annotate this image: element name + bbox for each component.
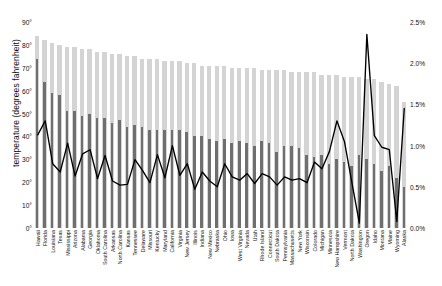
x-axis-label: Alabama bbox=[80, 230, 86, 251]
x-axis-label: Pennsylvania bbox=[282, 230, 288, 261]
x-axis-label: Alaska bbox=[401, 230, 407, 246]
x-axis-label-cell: Florida bbox=[41, 229, 48, 286]
x-axis-label-cell: Georgia bbox=[86, 229, 93, 286]
x-axis-label-cell: Michigan bbox=[318, 229, 325, 286]
x-axis-label: Connecticut bbox=[267, 230, 273, 258]
x-axis-label-cell: Oregon bbox=[363, 229, 370, 286]
x-axis-label-cell: Illinois bbox=[191, 229, 198, 286]
x-axis-label-cell: Louisiana bbox=[49, 229, 56, 286]
x-axis-label: Kansas bbox=[125, 230, 131, 248]
x-axis-label: Mississippi bbox=[65, 230, 71, 256]
x-axis-label: New Mexico bbox=[207, 230, 213, 259]
x-axis-label-cell: Utah bbox=[251, 229, 258, 286]
y-tick-right: 0.5% bbox=[410, 183, 440, 190]
x-axis-label-cell: New Hampshire bbox=[333, 229, 340, 286]
y-tick-right: 2.5% bbox=[410, 19, 440, 26]
x-axis-label-cell: Minnesota bbox=[326, 229, 333, 286]
x-axis-label: Louisiana bbox=[50, 230, 56, 253]
x-axis-label: Ohio bbox=[222, 230, 228, 241]
x-axis-label: California bbox=[169, 230, 175, 252]
x-axis-label: New Jersey bbox=[184, 230, 190, 258]
x-axis-label-cell: Kansas bbox=[124, 229, 131, 286]
x-axis-label-cell: Hawaii bbox=[34, 229, 41, 286]
x-axis-label: Arizona bbox=[72, 230, 78, 248]
x-axis-label: Maryland bbox=[162, 230, 168, 252]
x-axis-label-cell: South Dakota bbox=[274, 229, 281, 286]
x-axis-label: Oklahoma bbox=[95, 230, 101, 254]
x-axis-label-cell: Texas bbox=[56, 229, 63, 286]
x-axis-label: Massachusetts bbox=[289, 230, 295, 265]
x-axis-label: Wyoming bbox=[394, 230, 400, 252]
x-axis-label: Minnesota bbox=[327, 230, 333, 254]
x-axis-label: Delaware bbox=[140, 230, 146, 252]
y-tick-right: 1.0% bbox=[410, 142, 440, 149]
x-axis-label: Hawaii bbox=[35, 230, 41, 246]
x-axis-label: South Dakota bbox=[274, 230, 280, 262]
x-axis-label: Arkansas bbox=[110, 230, 116, 252]
x-axis-label-cell: Massachusetts bbox=[288, 229, 295, 286]
x-axis-label: Utah bbox=[252, 230, 258, 241]
x-axis-label: North Dakota bbox=[349, 230, 355, 261]
x-axis-label-cell: Arkansas bbox=[109, 229, 116, 286]
plot-area bbox=[34, 22, 408, 228]
x-axis-label: Florida bbox=[42, 230, 48, 246]
x-axis-label: Colorado bbox=[312, 230, 318, 251]
x-axis-label-cell: Colorado bbox=[311, 229, 318, 286]
x-axis-label-cell: Missouri bbox=[146, 229, 153, 286]
x-axis-label: North Carolina bbox=[117, 230, 123, 264]
x-axis-label-cell: Kentucky bbox=[154, 229, 161, 286]
y-tick-right: 1.5% bbox=[410, 101, 440, 108]
x-axis-label-cell: South Carolina bbox=[101, 229, 108, 286]
x-axis-label-cell: Rhode Island bbox=[259, 229, 266, 286]
x-axis-label-cell: Pennsylvania bbox=[281, 229, 288, 286]
x-axis-label-cell: Wyoming bbox=[393, 229, 400, 286]
x-axis-label: Wisconsin bbox=[304, 230, 310, 254]
x-axis-label: Georgia bbox=[87, 230, 93, 249]
x-axis-label-cell: North Carolina bbox=[116, 229, 123, 286]
x-axis-label: Tennessee bbox=[132, 230, 138, 256]
x-axis-label: Oregon bbox=[364, 230, 370, 248]
x-axis-label-cell: Nebraska bbox=[214, 229, 221, 286]
x-axis-label: New Hampshire bbox=[334, 230, 340, 268]
y-axis-title: temperature (degrees fahrenheit) bbox=[11, 0, 23, 218]
x-axis-label-cell: Alabama bbox=[79, 229, 86, 286]
x-axis-label-cell: Connecticut bbox=[266, 229, 273, 286]
x-axis-label: Montana bbox=[379, 230, 385, 251]
x-axis-label: Texas bbox=[57, 230, 63, 244]
x-axis-label-cell: Arizona bbox=[71, 229, 78, 286]
y-tick-right: 0.0% bbox=[410, 225, 440, 232]
x-axis-label-cell: New Jersey bbox=[184, 229, 191, 286]
line-series-overlay bbox=[34, 22, 408, 228]
y-tick-left: 0° bbox=[16, 225, 32, 232]
x-axis-label: Virginia bbox=[177, 230, 183, 248]
x-axis-label-cell: Tennessee bbox=[131, 229, 138, 286]
x-axis-label-cell: New York bbox=[296, 229, 303, 286]
x-axis-label-cell: Washington bbox=[356, 229, 363, 286]
x-axis-label: Rhode Island bbox=[259, 230, 265, 261]
x-axis-label: Idaho bbox=[372, 230, 378, 243]
y-axis-right: 0.0%0.5%1.0%1.5%2.0%2.5% bbox=[410, 0, 440, 286]
x-axis-label: Nevada bbox=[244, 230, 250, 248]
x-axis-label-cell: West Virginia bbox=[236, 229, 243, 286]
x-axis-label: South Carolina bbox=[102, 230, 108, 265]
x-axis-labels: HawaiiFloridaLouisianaTexasMississippiAr… bbox=[34, 229, 408, 286]
x-axis-label-cell: Maine bbox=[386, 229, 393, 286]
x-axis-label-cell: Oklahoma bbox=[94, 229, 101, 286]
x-axis-label-cell: Virginia bbox=[176, 229, 183, 286]
x-axis-label: Missouri bbox=[147, 230, 153, 250]
y-tick-right: 2.0% bbox=[410, 60, 440, 67]
x-axis-label-cell: Ohio bbox=[221, 229, 228, 286]
x-axis-label: Vermont bbox=[342, 230, 348, 250]
x-axis-label-cell: Delaware bbox=[139, 229, 146, 286]
x-axis-label: Washington bbox=[357, 230, 363, 258]
x-axis-label-cell: Nevada bbox=[244, 229, 251, 286]
x-axis-label: Michigan bbox=[319, 230, 325, 251]
x-axis-label: West Virginia bbox=[237, 230, 243, 261]
x-axis-label: Kentucky bbox=[154, 230, 160, 252]
x-axis-label-cell: New Mexico bbox=[206, 229, 213, 286]
chart-container: 0°10°20°30°40°50°60°70°80°90° 0.0%0.5%1.… bbox=[0, 0, 442, 286]
x-axis-label-cell: Vermont bbox=[341, 229, 348, 286]
x-axis-label-cell: Iowa bbox=[229, 229, 236, 286]
x-axis-label: New York bbox=[297, 230, 303, 252]
x-axis-label-cell: California bbox=[169, 229, 176, 286]
